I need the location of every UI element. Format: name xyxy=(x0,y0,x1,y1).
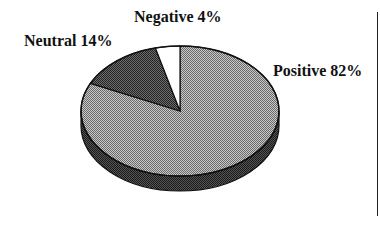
label-neutral: Neutral 14% xyxy=(24,33,112,49)
label-negative: Negative 4% xyxy=(134,9,222,25)
label-positive: Positive 82% xyxy=(273,63,362,79)
frame-border-right xyxy=(377,12,378,216)
